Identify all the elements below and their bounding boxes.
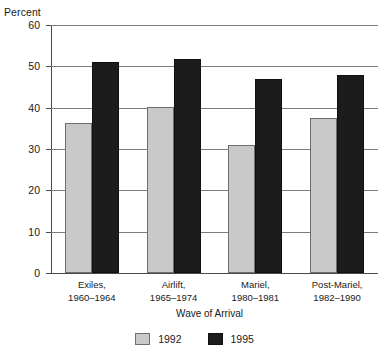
bar-1995-1 (92, 62, 119, 273)
x-tick-label-line: Exiles, (47, 278, 137, 291)
chart-legend: 19921995 (0, 333, 389, 345)
gridline (51, 25, 378, 26)
x-tick-label: Exiles,1960–1964 (47, 278, 137, 304)
x-tick-label: Post-Mariel,1982–1990 (292, 278, 382, 304)
bar-1992-3 (228, 145, 255, 273)
bar-1995-4 (337, 75, 364, 273)
legend-item-1992: 1992 (135, 333, 181, 345)
bar-1995-3 (255, 79, 282, 273)
legend-label: 1995 (231, 333, 254, 345)
x-tick-label-line: 1960–1964 (47, 291, 137, 304)
legend-swatch-1992 (135, 333, 150, 345)
x-tick-label-line: 1980–1981 (210, 291, 300, 304)
x-tick-label-line: Airlift, (129, 278, 219, 291)
y-axis-title: Percent (4, 6, 41, 18)
y-tick-label: 10 (6, 226, 40, 238)
legend-swatch-1995 (208, 333, 223, 345)
x-tick-label-line: Post-Mariel, (292, 278, 382, 291)
y-tick-label: 50 (6, 60, 40, 72)
bar-1995-2 (174, 59, 201, 273)
legend-label: 1992 (158, 333, 181, 345)
bar-1992-2 (147, 107, 174, 273)
y-tick-label: 60 (6, 19, 40, 31)
x-tick-label: Airlift,1965–1974 (129, 278, 219, 304)
x-axis-title: Wave of Arrival (0, 308, 389, 319)
y-tick-label: 0 (6, 267, 40, 279)
x-axis-line (51, 273, 378, 274)
bar-1992-1 (65, 123, 92, 273)
plot-area (51, 25, 378, 273)
y-tick-label: 30 (6, 143, 40, 155)
x-tick-label-line: 1965–1974 (129, 291, 219, 304)
x-tick-label-line: 1982–1990 (292, 291, 382, 304)
y-tick-label: 20 (6, 184, 40, 196)
x-tick-label-line: Mariel, (210, 278, 300, 291)
x-tick-label: Mariel,1980–1981 (210, 278, 300, 304)
legend-item-1995: 1995 (208, 333, 254, 345)
y-tick-label: 40 (6, 102, 40, 114)
bar-1992-4 (310, 118, 337, 273)
bar-chart: Percent 0102030405060 Exiles,1960–1964Ai… (0, 0, 389, 358)
